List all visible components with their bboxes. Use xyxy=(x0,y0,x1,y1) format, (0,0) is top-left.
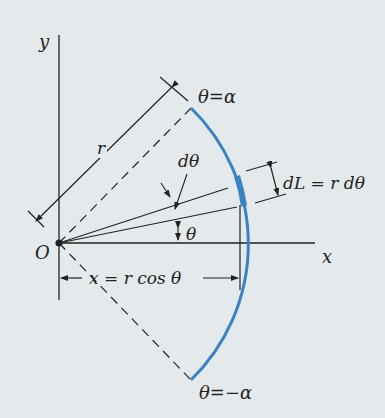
origin-point xyxy=(55,239,62,246)
label-theta-neg-alpha: θ=−α xyxy=(199,382,252,403)
ray-theta-plus-dtheta xyxy=(59,188,228,243)
label-theta-alpha: θ=α xyxy=(198,86,236,107)
label-x-eq: x = r cos θ xyxy=(89,268,181,288)
arc-element-dL xyxy=(237,176,244,206)
label-y-axis: y xyxy=(38,31,50,52)
label-r: r xyxy=(97,138,106,158)
dL-ext-lower xyxy=(255,194,286,203)
label-x-axis: x xyxy=(322,246,332,267)
dL-ext-upper xyxy=(246,162,277,171)
label-origin: O xyxy=(35,242,50,263)
label-theta: θ xyxy=(186,224,196,244)
d-theta-arrow-outer xyxy=(161,183,170,197)
radius-upper-dashed xyxy=(59,108,191,243)
r-ext-upper xyxy=(160,77,188,101)
radius-lower-dashed xyxy=(59,243,191,380)
label-d-theta: dθ xyxy=(178,151,199,171)
ray-theta xyxy=(59,207,237,243)
circular-arc-diagram: r dθ θ dL = r dθ x = r cos θ O y x θ=α θ… xyxy=(0,0,385,418)
dL-arrow xyxy=(271,168,278,195)
r-ext-lower xyxy=(28,211,44,227)
label-dL: dL = r dθ xyxy=(283,173,365,193)
